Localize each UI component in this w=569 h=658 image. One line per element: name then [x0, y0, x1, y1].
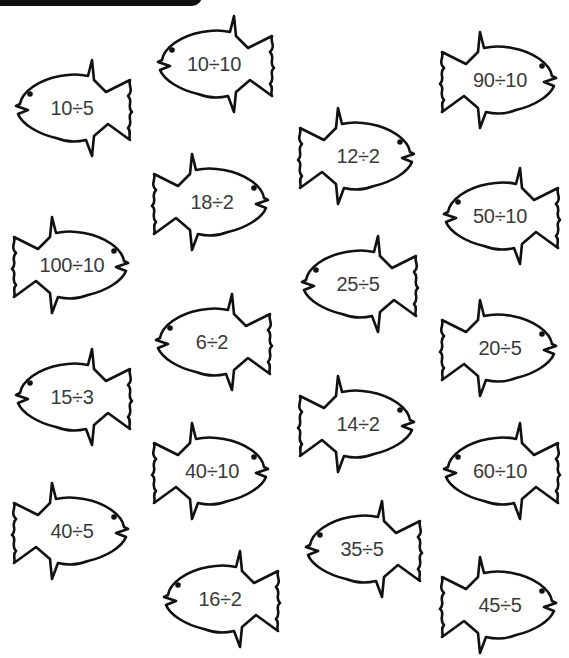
division-problem: 16÷2 [182, 588, 258, 611]
fish-card-1: 10÷5 [8, 58, 136, 158]
fish-card-15: 40÷5 [8, 481, 136, 581]
division-problem: 20÷5 [462, 337, 538, 360]
division-problem: 6÷2 [174, 331, 250, 354]
fish-eye-icon [111, 248, 117, 254]
fish-eye-icon [167, 325, 173, 331]
division-problem: 35÷5 [324, 538, 400, 561]
fish-eye-icon [397, 407, 403, 413]
fish-eye-icon [313, 267, 319, 273]
division-problem: 100÷10 [34, 254, 110, 277]
fish-card-7: 100÷10 [8, 215, 136, 315]
division-problem: 40÷5 [34, 520, 110, 543]
fish-card-16: 35÷5 [298, 499, 426, 599]
fish-card-11: 15÷3 [8, 347, 136, 447]
fish-card-13: 40÷10 [148, 421, 276, 521]
division-problem: 50÷10 [462, 205, 538, 228]
division-problem: 14÷2 [320, 413, 396, 436]
fish-eye-icon [455, 199, 461, 205]
division-problem: 15÷3 [34, 386, 110, 409]
fish-card-8: 25÷5 [294, 234, 422, 334]
fish-card-2: 10÷10 [150, 14, 278, 114]
fish-eye-icon [111, 514, 117, 520]
fish-eye-icon [397, 139, 403, 145]
division-problem: 12÷2 [320, 145, 396, 168]
fish-card-5: 18÷2 [148, 152, 276, 252]
division-problem: 10÷10 [176, 53, 252, 76]
fish-eye-icon [317, 532, 323, 538]
division-problem: 60÷10 [462, 460, 538, 483]
header-bar [0, 0, 202, 6]
fish-card-10: 20÷5 [436, 298, 564, 398]
fish-eye-icon [539, 331, 545, 337]
division-problem: 25÷5 [320, 273, 396, 296]
fish-eye-icon [27, 91, 33, 97]
fish-eye-icon [175, 582, 181, 588]
fish-eye-icon [539, 588, 545, 594]
division-problem: 45÷5 [462, 594, 538, 617]
fish-eye-icon [251, 185, 257, 191]
fish-card-14: 60÷10 [436, 421, 564, 521]
division-problem: 40÷10 [174, 460, 250, 483]
fish-eye-icon [455, 454, 461, 460]
fish-eye-icon [539, 63, 545, 69]
fish-eye-icon [251, 454, 257, 460]
fish-card-18: 45÷5 [436, 555, 564, 655]
fish-card-4: 12÷2 [294, 106, 422, 206]
division-problem: 90÷10 [462, 69, 538, 92]
fish-card-6: 50÷10 [436, 166, 564, 266]
fish-card-3: 90÷10 [436, 30, 564, 130]
division-problem: 10÷5 [34, 97, 110, 120]
fish-card-9: 6÷2 [148, 292, 276, 392]
fish-card-17: 16÷2 [156, 549, 284, 649]
fish-eye-icon [27, 380, 33, 386]
fish-eye-icon [169, 47, 175, 53]
division-problem: 18÷2 [174, 191, 250, 214]
fish-card-12: 14÷2 [294, 374, 422, 474]
